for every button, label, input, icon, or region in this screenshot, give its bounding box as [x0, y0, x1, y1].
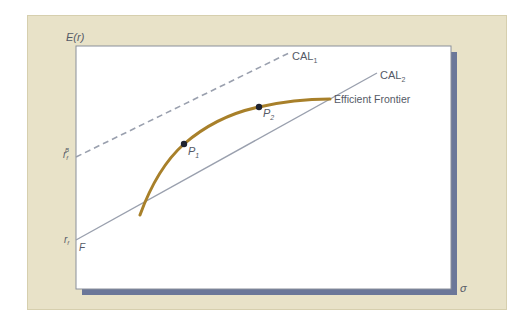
- plot-area: [76, 46, 451, 289]
- efficient-frontier-label: Efficient Frontier: [334, 93, 411, 105]
- f-label: F: [79, 242, 86, 253]
- p2-dot: [256, 104, 262, 110]
- chart-svg: E(r) σ rfB rf F P1 P2 CAL1 CAL2 Efficien…: [0, 0, 530, 326]
- y-axis-label: E(r): [66, 31, 85, 43]
- rf-label: rf: [64, 234, 70, 246]
- rfb-label: rfB: [63, 147, 69, 161]
- x-axis-label: σ: [460, 282, 467, 294]
- p1-dot: [181, 141, 187, 147]
